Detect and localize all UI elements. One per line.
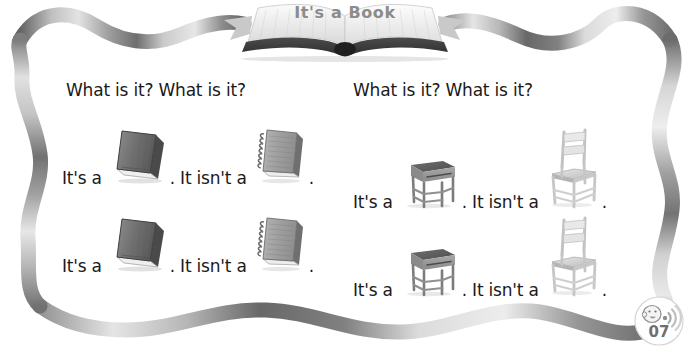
header-banner: It's a Book <box>222 0 468 62</box>
negative-text: It isn't a <box>472 282 539 301</box>
affirmative-text: It's a <box>62 258 102 277</box>
affirmative-text: It's a <box>353 282 393 301</box>
end-period: . <box>307 170 314 189</box>
negative-text: It isn't a <box>180 170 247 189</box>
period: . <box>460 282 467 301</box>
desk-icon <box>398 151 460 213</box>
period: . <box>460 194 467 213</box>
question-text-right: What is it? What is it? <box>353 80 533 100</box>
page-title: It's a Book <box>222 3 468 22</box>
end-period: . <box>600 194 607 213</box>
exercise-content: What is it? What is it? It's a <box>48 72 648 282</box>
sentence-row: It's a <box>62 127 314 189</box>
book-icon <box>108 129 168 189</box>
book-icon <box>108 217 168 277</box>
affirmative-text: It's a <box>62 170 102 189</box>
page-number-badge: 07 <box>634 296 684 346</box>
period: . <box>168 258 175 277</box>
sentence-row: It's a <box>353 215 607 301</box>
sentence-row: It's a . <box>62 215 314 277</box>
negative-text: It isn't a <box>180 258 247 277</box>
chair-icon <box>544 127 600 213</box>
affirmative-text: It's a <box>353 194 393 213</box>
page-number: 07 <box>634 323 684 341</box>
sentence-row: It's a <box>353 127 607 213</box>
negative-text: It isn't a <box>472 194 539 213</box>
end-period: . <box>600 282 607 301</box>
notebook-icon <box>253 215 307 277</box>
question-text-left: What is it? What is it? <box>66 80 246 100</box>
desk-icon <box>398 239 460 301</box>
worksheet-page: It's a Book What is it? What is it? It's… <box>0 0 690 348</box>
period: . <box>168 170 175 189</box>
end-period: . <box>307 258 314 277</box>
chair-icon <box>544 215 600 301</box>
notebook-icon <box>253 127 307 189</box>
